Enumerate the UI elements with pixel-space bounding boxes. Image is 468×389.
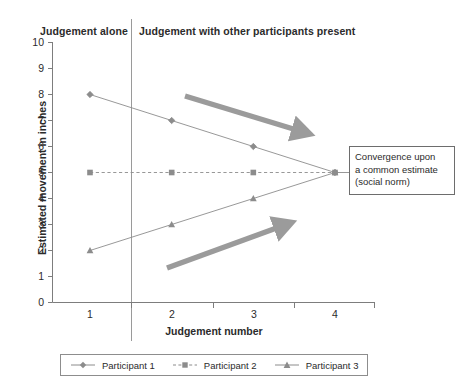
y-axis <box>48 42 53 303</box>
svg-text:8: 8 <box>38 88 44 100</box>
data-point-marker <box>87 91 93 97</box>
svg-text:3: 3 <box>251 308 257 320</box>
legend-item-participant-3: Participant 3 <box>274 359 359 371</box>
data-point-marker <box>251 170 257 176</box>
data-point-marker <box>168 117 174 123</box>
trend-arrow-decreasing <box>185 96 300 131</box>
svg-text:10: 10 <box>32 36 44 48</box>
y-axis-tick-labels: 0 1 2 3 4 5 6 7 8 9 10 <box>32 36 44 308</box>
x-axis-tick-labels: 1 2 3 4 <box>87 308 338 320</box>
legend-label-participant-1: Participant 1 <box>102 360 155 371</box>
svg-text:9: 9 <box>38 62 44 74</box>
svg-text:0: 0 <box>38 296 44 308</box>
triangle-marker-icon <box>274 359 300 371</box>
trend-arrow-increasing <box>167 226 282 268</box>
svg-text:4: 4 <box>332 308 338 320</box>
diamond-marker-icon <box>70 359 96 371</box>
svg-text:6: 6 <box>38 140 44 152</box>
svg-text:2: 2 <box>38 244 44 256</box>
square-marker-icon <box>172 359 198 371</box>
legend: Participant 1 Participant 2 Participant … <box>60 354 368 376</box>
svg-text:3: 3 <box>38 218 44 230</box>
legend-label-participant-3: Participant 3 <box>306 360 359 371</box>
series-participant-3 <box>87 169 339 253</box>
chart-figure: Judgement alone Judgement with other par… <box>0 0 468 389</box>
svg-text:2: 2 <box>169 308 175 320</box>
svg-text:1: 1 <box>38 270 44 282</box>
svg-text:7: 7 <box>38 114 44 126</box>
callout-line-1: Convergence upon <box>355 151 449 164</box>
legend-item-participant-2: Participant 2 <box>172 359 257 371</box>
data-point-marker <box>250 143 256 149</box>
svg-text:5: 5 <box>38 166 44 178</box>
data-point-marker <box>87 170 93 176</box>
svg-text:4: 4 <box>38 192 44 204</box>
plot-area: 0 1 2 3 4 5 6 7 8 9 10 1 2 3 4 <box>0 0 468 389</box>
data-point-marker <box>169 170 175 176</box>
x-axis <box>53 303 376 309</box>
legend-label-participant-2: Participant 2 <box>204 360 257 371</box>
callout-line-3: (social norm) <box>355 176 449 189</box>
callout-line-2: a common estimate <box>355 164 449 177</box>
legend-item-participant-1: Participant 1 <box>70 359 155 371</box>
series-participant-2 <box>87 170 338 176</box>
annotation-callout: Convergence upon a common estimate (soci… <box>349 146 455 195</box>
svg-text:1: 1 <box>87 308 93 320</box>
